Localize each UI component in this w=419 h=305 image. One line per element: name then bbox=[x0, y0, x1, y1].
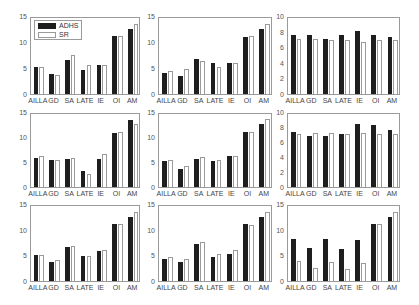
bar-sr-ailla bbox=[168, 257, 173, 282]
bar-sr-oi bbox=[377, 224, 382, 281]
bar-adhs-late bbox=[81, 256, 86, 282]
bar-sr-sa bbox=[329, 262, 334, 282]
chart-legend: ADHSSR bbox=[34, 20, 82, 40]
bar-sr-gd bbox=[55, 160, 60, 187]
bar-adhs-gd bbox=[307, 248, 312, 282]
bar-sr-late bbox=[87, 65, 92, 94]
x-tick-label: AM bbox=[252, 190, 276, 198]
plot-axes-row3-col3 bbox=[287, 205, 400, 282]
bar-adhs-am bbox=[128, 29, 133, 94]
bar-sr-late bbox=[87, 256, 92, 282]
x-tick-label: AM bbox=[120, 97, 144, 105]
bar-adhs-am bbox=[259, 217, 264, 282]
bar-adhs-ailla bbox=[162, 259, 167, 281]
bar-adhs-oi bbox=[371, 125, 376, 187]
legend-swatch bbox=[38, 23, 56, 29]
bar-sr-sa bbox=[71, 158, 76, 187]
bar-sr-oi bbox=[377, 134, 382, 187]
y-tick-label: 5 bbox=[13, 252, 27, 259]
bar-sr-gd bbox=[55, 260, 60, 282]
bar-adhs-ie bbox=[227, 254, 232, 281]
bar-sr-sa bbox=[329, 40, 334, 94]
y-tick-label: 5 bbox=[141, 159, 155, 166]
bar-sr-gd bbox=[313, 133, 318, 187]
x-tick-label: AM bbox=[380, 284, 404, 292]
legend-item-sr: SR bbox=[35, 30, 81, 39]
plot-axes-row1-col2 bbox=[158, 17, 272, 95]
bar-adhs-am bbox=[388, 217, 393, 282]
y-tick-label: 10 bbox=[270, 109, 284, 116]
bar-adhs-sa bbox=[65, 247, 70, 281]
bar-sr-gd bbox=[184, 166, 189, 187]
bar-sr-late bbox=[217, 67, 222, 94]
bar-sr-late bbox=[345, 269, 350, 282]
bar-sr-ie bbox=[233, 156, 238, 187]
bar-adhs-gd bbox=[178, 76, 183, 94]
bar-sr-oi bbox=[249, 36, 254, 94]
legend-label: SR bbox=[59, 31, 69, 38]
bar-adhs-ie bbox=[355, 124, 360, 187]
y-tick-label: 15 bbox=[141, 13, 155, 20]
bar-sr-late bbox=[217, 254, 222, 281]
bar-adhs-oi bbox=[112, 224, 117, 281]
y-tick-label: 10 bbox=[270, 227, 284, 234]
bar-adhs-am bbox=[128, 217, 133, 282]
y-tick-label: 5 bbox=[13, 65, 27, 72]
y-tick-label: 0 bbox=[141, 184, 155, 191]
y-tick-label: 5 bbox=[141, 252, 155, 259]
y-tick-label: 5 bbox=[270, 252, 284, 259]
bar-adhs-ailla bbox=[291, 132, 296, 187]
plot-axes-row2-col3 bbox=[287, 113, 400, 188]
bar-sr-am bbox=[265, 212, 270, 282]
bar-sr-late bbox=[217, 160, 222, 187]
bar-adhs-ailla bbox=[34, 255, 39, 281]
plot-axes-row3-col2 bbox=[158, 205, 272, 282]
legend-item-adhs: ADHS bbox=[35, 21, 81, 30]
bar-sr-ie bbox=[233, 250, 238, 282]
bar-adhs-am bbox=[388, 130, 393, 187]
bar-adhs-sa bbox=[323, 239, 328, 282]
x-tick-label: AM bbox=[120, 284, 144, 292]
x-tick-label: AM bbox=[252, 284, 276, 292]
bar-sr-oi bbox=[118, 132, 123, 187]
bar-adhs-gd bbox=[49, 160, 54, 187]
y-tick-label: 0 bbox=[141, 91, 155, 98]
bar-sr-gd bbox=[184, 259, 189, 281]
y-tick-label: 2 bbox=[270, 75, 284, 82]
bar-sr-am bbox=[134, 212, 139, 282]
y-tick-label: 10 bbox=[13, 134, 27, 141]
y-tick-label: 0 bbox=[270, 91, 284, 98]
bar-sr-ie bbox=[102, 65, 107, 94]
bar-sr-sa bbox=[329, 133, 334, 187]
bar-adhs-late bbox=[339, 249, 344, 282]
bar-adhs-oi bbox=[243, 224, 248, 281]
bar-sr-ailla bbox=[297, 261, 302, 281]
bar-sr-sa bbox=[200, 61, 205, 94]
bar-adhs-oi bbox=[371, 35, 376, 94]
bar-sr-ailla bbox=[39, 67, 44, 94]
bar-sr-gd bbox=[313, 268, 318, 281]
y-tick-label: 6 bbox=[270, 139, 284, 146]
y-tick-label: 6 bbox=[270, 44, 284, 51]
y-tick-label: 15 bbox=[13, 109, 27, 116]
bar-adhs-late bbox=[211, 257, 216, 282]
bar-sr-oi bbox=[249, 225, 254, 282]
y-tick-label: 4 bbox=[270, 60, 284, 67]
y-tick-label: 15 bbox=[13, 201, 27, 208]
bar-adhs-ailla bbox=[162, 73, 167, 94]
bar-adhs-sa bbox=[323, 39, 328, 94]
bar-adhs-am bbox=[259, 124, 264, 187]
bar-adhs-ie bbox=[97, 251, 102, 281]
bar-adhs-sa bbox=[65, 60, 70, 94]
bar-adhs-late bbox=[211, 63, 216, 94]
bar-sr-ie bbox=[102, 154, 107, 187]
y-tick-label: 10 bbox=[141, 134, 155, 141]
y-tick-label: 5 bbox=[13, 159, 27, 166]
bar-sr-ie bbox=[361, 42, 366, 94]
bar-adhs-ie bbox=[355, 31, 360, 94]
y-tick-label: 15 bbox=[13, 13, 27, 20]
bar-adhs-gd bbox=[178, 262, 183, 282]
y-tick-label: 0 bbox=[270, 278, 284, 285]
plot-axes-row1-col3 bbox=[287, 17, 400, 95]
plot-axes-row2-col2 bbox=[158, 113, 272, 188]
